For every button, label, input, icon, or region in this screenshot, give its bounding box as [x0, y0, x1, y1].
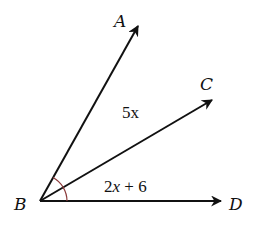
angle-cbd-expression: 2x + 6 — [104, 177, 147, 196]
diagram-svg: A B C D 5x 2x + 6 — [0, 0, 260, 229]
label-c: C — [200, 74, 213, 94]
angle-abc-expression: 5x — [122, 103, 140, 122]
label-d: D — [228, 194, 243, 214]
label-b: B — [13, 194, 27, 214]
angle-diagram: A B C D 5x 2x + 6 — [0, 0, 260, 229]
label-a: A — [112, 11, 126, 31]
